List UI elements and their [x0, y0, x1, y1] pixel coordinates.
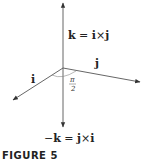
label-i: i — [31, 73, 35, 86]
angle-numerator: π — [69, 76, 75, 84]
i-axis-arrow — [13, 68, 63, 100]
label-neg-k-equals-j-cross-i: −k = j×i — [44, 132, 94, 145]
angle-denominator: 2 — [70, 85, 76, 93]
label-k-equals-i-cross-j: k = i×j — [68, 29, 109, 42]
label-j: j — [94, 57, 99, 70]
figure-caption: FIGURE 5 — [2, 150, 58, 161]
vector-diagram: k = i×j j i π 2 −k = j×i — [0, 0, 154, 167]
